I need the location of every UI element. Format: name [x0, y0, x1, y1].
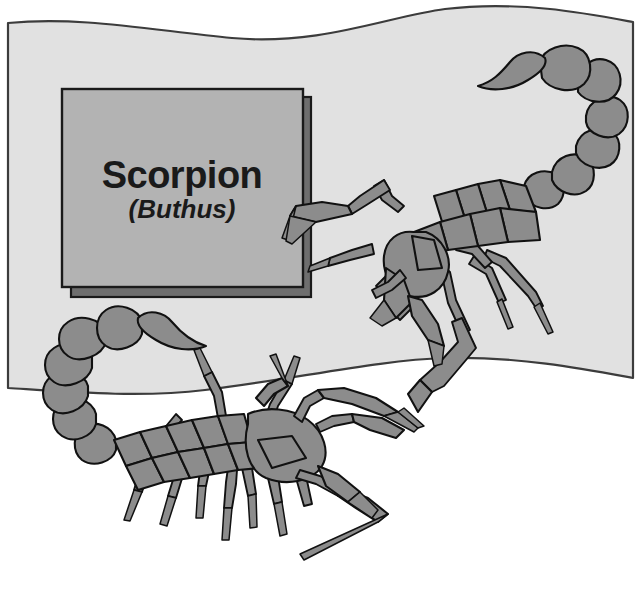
- tail-segment-6: [540, 46, 590, 90]
- plaque-genus: (Buthus): [129, 194, 236, 224]
- plaque-title: Scorpion: [102, 154, 263, 196]
- leg-lower-3-tip: [248, 494, 257, 528]
- scorpion-illustration: .body-part { fill: #8c8c8c; stroke: #111…: [0, 0, 641, 595]
- tail-segment-4: [586, 97, 628, 137]
- tail2-segment-6: [97, 306, 142, 349]
